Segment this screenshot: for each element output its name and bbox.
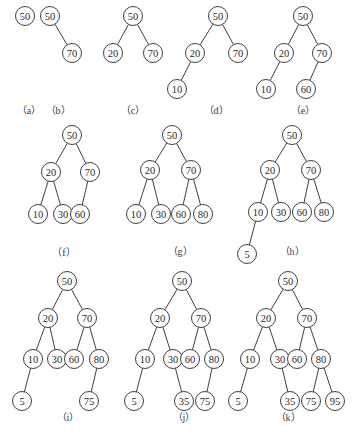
tree-node: 70	[63, 44, 82, 63]
tree-node: 10	[257, 80, 276, 99]
panel-label: （e）	[291, 105, 315, 116]
node-value: 70	[67, 48, 78, 59]
tree-edge	[148, 327, 156, 350]
tree-node: 70	[81, 163, 100, 182]
tree-edge	[194, 179, 201, 205]
node-value: 10	[253, 207, 264, 218]
tree-edge	[90, 327, 97, 350]
node-value: 70	[306, 165, 317, 176]
tree-edge	[292, 290, 302, 310]
tree-node: 70	[192, 309, 211, 328]
tree-edge	[181, 62, 191, 81]
tree-node: 50	[279, 272, 298, 291]
tree-edge	[41, 181, 48, 205]
tree-panel-f: 502070103060（f）	[29, 126, 100, 259]
tree-edge	[139, 179, 147, 205]
tree-edge	[175, 368, 181, 392]
node-value: 10	[28, 354, 39, 365]
tree-edge	[304, 179, 309, 202]
tree-node: 10	[127, 205, 146, 224]
node-value: 30	[156, 209, 167, 220]
tree-node: 10	[249, 203, 268, 222]
tree-node: 35	[175, 392, 194, 411]
tree-edge	[207, 368, 212, 391]
node-value: 60	[297, 207, 308, 218]
node-value: 70	[233, 48, 244, 59]
node-value: 20	[108, 48, 119, 59]
node-value: 10	[172, 84, 183, 95]
node-value: 50	[128, 11, 139, 22]
tree-node: 35	[281, 392, 300, 411]
tree-node: 80	[90, 350, 109, 369]
panel-label: （c）	[121, 105, 145, 116]
tree-node: 70	[313, 44, 332, 63]
node-value: 80	[209, 354, 220, 365]
tree-edge	[54, 181, 61, 205]
tree-node: 70	[229, 44, 248, 63]
tree-edge	[223, 24, 234, 44]
tree-panel-a: 50（a）	[16, 7, 42, 117]
node-value: 60	[176, 209, 187, 220]
node-value: 80	[316, 354, 327, 365]
tree-edge	[270, 62, 280, 81]
node-value: 20	[261, 313, 272, 324]
tree-node: 60	[297, 80, 316, 99]
node-value: 20	[46, 167, 57, 178]
tree-node: 30	[271, 350, 290, 369]
tree-node: 50	[209, 7, 228, 26]
tree-node: 60	[288, 350, 307, 369]
tree-node: 60	[172, 205, 191, 224]
panel-label: （d）	[204, 105, 229, 116]
tree-edge	[269, 327, 277, 350]
tree-edge	[282, 368, 288, 392]
tree-edge	[138, 24, 149, 44]
node-value: 10	[131, 209, 142, 220]
tree-node: 30	[152, 205, 171, 224]
tree-node: 75	[80, 392, 99, 411]
tree-edge	[271, 289, 283, 310]
tree-edge	[186, 290, 196, 310]
tree-node: 5	[13, 392, 32, 411]
panel-label: （j）	[173, 412, 196, 423]
node-value: 30	[52, 354, 63, 365]
node-value: 50	[67, 130, 78, 141]
tree-edge	[55, 24, 67, 45]
tree-node: 95	[326, 392, 345, 411]
tree-node: 70	[302, 161, 321, 180]
tree-edge	[272, 179, 278, 203]
tree-edge	[76, 144, 86, 164]
panel-label: （f）	[52, 247, 75, 258]
node-value: 35	[179, 396, 190, 407]
node-value: 20	[265, 165, 276, 176]
tree-node: 5	[229, 392, 248, 411]
tree-panel-i: 50207010306080575（i）	[13, 272, 109, 424]
tree-panel-d: 50207010（d）	[168, 7, 248, 117]
tree-edge	[36, 327, 44, 350]
tree-edge	[275, 143, 287, 162]
tree-edge	[299, 327, 304, 350]
tree-panel-k: 502070103060805357595（k）	[229, 272, 345, 424]
node-value: 20	[155, 313, 166, 324]
tree-edge	[136, 368, 142, 392]
tree-edge	[82, 181, 88, 205]
tree-node: 10	[24, 350, 43, 369]
node-value: 50	[298, 11, 309, 22]
node-value: 60	[75, 209, 86, 220]
node-value: 50	[45, 11, 56, 22]
tree-edge	[313, 368, 319, 392]
tree-node: 10	[241, 350, 260, 369]
tree-edge	[307, 25, 317, 45]
tree-edge	[241, 368, 248, 392]
node-value: 80	[319, 207, 330, 218]
node-value: 50	[283, 276, 294, 287]
tree-node: 10	[29, 205, 48, 224]
tree-node: 20	[186, 44, 205, 63]
tree-node: 5	[125, 392, 144, 411]
tree-node: 80	[315, 203, 334, 222]
tree-node: 30	[48, 350, 67, 369]
tree-edge	[183, 179, 189, 204]
node-value: 60	[301, 84, 312, 95]
tree-edge	[310, 62, 318, 81]
tree-edge	[249, 221, 255, 245]
tree-edge	[310, 327, 318, 350]
